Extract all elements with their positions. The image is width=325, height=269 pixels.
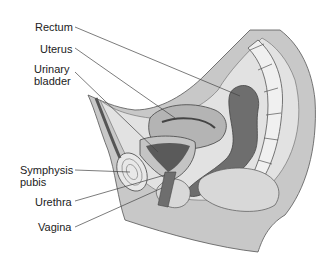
label-uterus: Uterus (40, 43, 72, 55)
label-rectum: Rectum (35, 21, 73, 33)
label-urethra: Urethra (35, 196, 72, 208)
label-urinary: Urinary (34, 63, 69, 75)
label-bladder: bladder (34, 75, 71, 87)
label-pubis: pubis (20, 176, 46, 188)
label-vagina: Vagina (38, 221, 71, 233)
label-symphysis: Symphysis (20, 164, 73, 176)
